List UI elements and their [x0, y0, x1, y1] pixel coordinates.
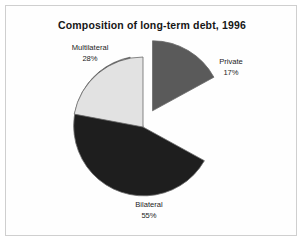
- chart-figure: Composition of long-term debt, 1996 Mult…: [0, 0, 304, 243]
- pie-label-private-value: 17%: [196, 68, 266, 79]
- pie-label-multilateral-name: Multilateral: [48, 43, 132, 54]
- pie-label-bilateral: Bilateral 55%: [104, 200, 194, 221]
- pie-label-multilateral-value: 28%: [48, 54, 132, 65]
- pie-label-bilateral-name: Bilateral: [104, 200, 194, 211]
- pie-label-private: Private 17%: [196, 57, 266, 78]
- pie-label-multilateral: Multilateral 28%: [48, 43, 132, 64]
- pie-label-bilateral-value: 55%: [104, 211, 194, 222]
- pie-label-private-name: Private: [196, 57, 266, 68]
